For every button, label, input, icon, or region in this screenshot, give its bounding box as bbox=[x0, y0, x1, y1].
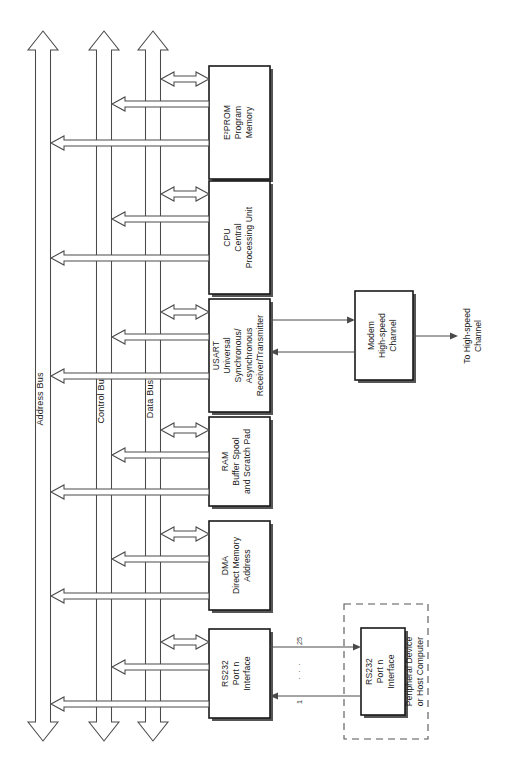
module-label-line: Buffer Spool bbox=[231, 437, 241, 485]
connector-rs232-in bbox=[270, 693, 361, 700]
connector-modem-to-channel bbox=[413, 333, 458, 340]
modem-label-line: Modem bbox=[366, 321, 376, 350]
module-eeprom[interactable]: E²PROM Program Memory bbox=[51, 66, 273, 182]
module-modem[interactable]: Modem High-speed Channel bbox=[270, 291, 416, 383]
connector-modem-to-usart bbox=[270, 349, 355, 356]
module-label-line: RS232 bbox=[220, 660, 230, 687]
module-label-line: E²PROM bbox=[222, 105, 232, 140]
peripheral-box-label-line: Port n bbox=[375, 660, 385, 684]
connector-address-arrow bbox=[51, 251, 209, 265]
peripheral-enclosure-label-line: or Host Computer bbox=[415, 637, 425, 706]
connector-data-bidirectional bbox=[161, 635, 209, 649]
bus-label-address: Address Bus bbox=[35, 372, 45, 426]
module-label-line: Address bbox=[242, 549, 252, 581]
module-label-line: Receiver/Transmitter bbox=[255, 315, 265, 396]
external-high-speed-channel: To High-speed Channel bbox=[413, 308, 483, 364]
connector-address-arrow bbox=[51, 369, 209, 383]
module-label-line: Port n bbox=[231, 662, 241, 686]
modem-label-line: High-speed bbox=[377, 313, 387, 358]
block-diagram-canvas: Address Bus Control Bus Data Bus E²PROM … bbox=[0, 0, 508, 771]
peripheral-device-enclosure: RS232 Port n Interface Peripheral Device… bbox=[344, 604, 428, 739]
module-label-line: Direct Memory bbox=[231, 536, 241, 594]
external-channel-label-line: To High-speed bbox=[462, 308, 472, 364]
connector-address-arrow bbox=[51, 136, 209, 150]
module-label-line: Central bbox=[233, 223, 243, 251]
module-dma[interactable]: DMA Direct Memory Address bbox=[51, 521, 273, 613]
module-usart[interactable]: USART Universal Synchronous/ Asynchronou… bbox=[51, 299, 273, 415]
connector-data-bidirectional bbox=[161, 305, 209, 319]
bus-data: Data Bus bbox=[138, 31, 168, 741]
module-cpu[interactable]: CPU Central Processing Unit bbox=[51, 181, 273, 297]
pin-label-bottom: 1 bbox=[295, 700, 304, 704]
module-label-line: Interface bbox=[242, 656, 252, 690]
bus-label-data: Data Bus bbox=[145, 379, 155, 418]
module-rs232-internal[interactable]: RS232 Port n Interface bbox=[51, 629, 273, 721]
pin-label-ellipsis: · · · bbox=[295, 662, 304, 679]
module-label-line: DMA bbox=[220, 556, 230, 576]
connector-address-arrow bbox=[51, 589, 209, 603]
connector-data-bidirectional bbox=[161, 527, 209, 541]
rs232-signal-lines: 25 · · · 1 bbox=[270, 637, 361, 704]
module-ram[interactable]: RAM Buffer Spool and Scratch Pad bbox=[51, 417, 273, 509]
module-label-line: CPU bbox=[222, 228, 232, 246]
module-label-line: and Scratch Pad bbox=[242, 429, 252, 494]
bus-label-control: Control Bus bbox=[96, 374, 106, 423]
connector-address-arrow bbox=[51, 485, 209, 499]
peripheral-box-label-line: Interface bbox=[386, 654, 396, 688]
connector-data-bidirectional bbox=[161, 423, 209, 437]
module-label-line: Asynchronous bbox=[244, 328, 254, 384]
bus-control: Control Bus bbox=[89, 31, 119, 741]
block-diagram-svg: Address Bus Control Bus Data Bus E²PROM … bbox=[0, 0, 508, 771]
connector-data-bidirectional bbox=[161, 72, 209, 86]
connector-rs232-out bbox=[270, 644, 361, 651]
module-label-line: Synchronous/ bbox=[233, 328, 243, 382]
module-label-line: RAM bbox=[220, 452, 230, 471]
module-label-line: Memory bbox=[244, 106, 254, 138]
connector-data-bidirectional bbox=[161, 187, 209, 201]
connector-address-arrow bbox=[51, 697, 209, 711]
module-label-line: USART bbox=[211, 340, 221, 370]
peripheral-box-label-line: RS232 bbox=[364, 658, 374, 685]
module-label-line: Universal bbox=[222, 337, 232, 374]
bus-address: Address Bus bbox=[28, 31, 58, 741]
pin-label-top: 25 bbox=[295, 637, 304, 645]
module-label-line: Processing Unit bbox=[244, 206, 254, 268]
peripheral-enclosure-label-line: Peripheral Device bbox=[404, 637, 414, 707]
modem-label-line: Channel bbox=[388, 319, 398, 352]
external-channel-label-line: Channel bbox=[473, 320, 483, 352]
module-label-line: Program bbox=[233, 106, 243, 140]
connector-usart-to-modem bbox=[270, 317, 355, 324]
